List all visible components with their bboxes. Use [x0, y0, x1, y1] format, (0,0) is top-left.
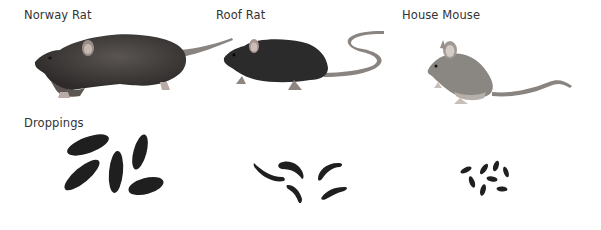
- roof-rat-droppings: [252, 155, 357, 210]
- norway-rat-illustration: [30, 30, 235, 102]
- house-mouse-label: House Mouse: [402, 8, 480, 22]
- droppings-label: Droppings: [24, 116, 84, 130]
- house-mouse-illustration: [424, 36, 574, 106]
- norway-rat-label: Norway Rat: [24, 8, 92, 22]
- roof-rat-label: Roof Rat: [216, 8, 265, 22]
- house-mouse-droppings: [458, 160, 518, 200]
- roof-rat-illustration: [222, 28, 387, 98]
- norway-rat-droppings: [58, 134, 168, 202]
